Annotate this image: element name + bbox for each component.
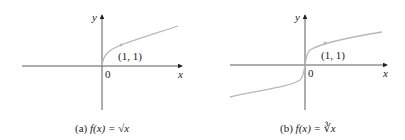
cbrt-curve (230, 32, 382, 97)
y-axis-label: y (91, 11, 97, 23)
point-label: (1, 1) (321, 49, 345, 62)
y-axis-label: y (294, 11, 300, 23)
caption-prefix: (b) (280, 122, 293, 134)
panel-b-graph: y x 0 (1, 1) (230, 11, 388, 110)
point-1-1 (120, 44, 123, 47)
panel-a-graph: y x 0 (1, 1) (22, 11, 183, 110)
caption-prefix: (a) (75, 122, 87, 134)
figure: y x 0 (1, 1) y x 0 (1, 1) (0, 0, 405, 140)
x-axis-label: x (382, 67, 388, 79)
caption-b: (b) f(x) = ∛x (280, 122, 336, 135)
point-label: (1, 1) (118, 50, 142, 63)
caption-function: f(x) = ∛x (296, 122, 336, 134)
caption-a: (a) f(x) = √x (75, 122, 129, 134)
caption-function: f(x) = √x (90, 122, 129, 134)
origin-label: 0 (105, 68, 111, 80)
x-axis-label: x (177, 68, 183, 80)
origin-label: 0 (308, 67, 314, 79)
point-1-1 (324, 42, 327, 45)
